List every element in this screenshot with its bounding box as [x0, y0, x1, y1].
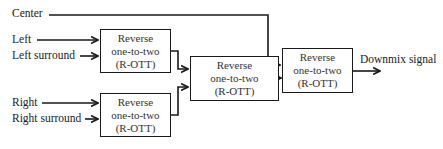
r-ott-block-right: Reverse one-to-two (R-OTT) [100, 93, 171, 137]
left-surround-label: Left surround [12, 50, 75, 62]
block-line3: (R-OTT) [116, 122, 156, 135]
r-ott-block-final: Reverse one-to-two (R-OTT) [282, 48, 353, 93]
left-label: Left [12, 34, 31, 46]
block-line2: one-to-two [210, 72, 258, 85]
r-ott-block-middle: Reverse one-to-two (R-OTT) [190, 56, 279, 101]
block-line1: Reverse [118, 32, 153, 45]
block-line1: Reverse [118, 96, 153, 109]
block-line1: Reverse [217, 59, 252, 72]
r-ott-block-left: Reverse one-to-two (R-OTT) [100, 29, 171, 73]
center-label: Center [12, 8, 43, 20]
downmix-signal-label: Downmix signal [360, 54, 436, 66]
block-line2: one-to-two [293, 64, 341, 77]
block-line1: Reverse [300, 51, 335, 64]
block-line3: (R-OTT) [116, 58, 156, 71]
block-line2: one-to-two [111, 109, 159, 122]
block-line3: (R-OTT) [215, 85, 255, 98]
right-surround-label: Right surround [12, 113, 81, 125]
right-label: Right [12, 97, 38, 109]
block-line3: (R-OTT) [298, 77, 338, 90]
block-line2: one-to-two [111, 45, 159, 58]
